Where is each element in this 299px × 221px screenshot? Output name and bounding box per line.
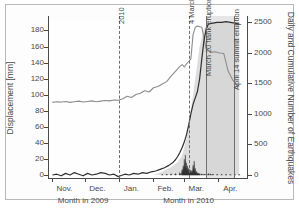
tick-mark — [44, 143, 48, 144]
displacement-area-fill — [153, 22, 239, 175]
x-tick-label: Apr. — [223, 184, 237, 193]
x-tick-label: Feb. — [157, 184, 173, 193]
plot-area: 020406080100120140160180 050010001500200… — [48, 20, 248, 175]
event-line-2010 — [119, 16, 120, 178]
tick-mark — [52, 178, 53, 182]
tick-mark — [119, 178, 120, 182]
event-label-april-14-summit-eruption: April 14 summit eruption — [232, 9, 241, 90]
tick-mark — [44, 111, 48, 112]
tick-mark — [248, 114, 252, 115]
right-tick-label: 0 — [254, 171, 258, 179]
tick-mark — [44, 63, 48, 64]
left-tick-label: 180 — [31, 26, 44, 34]
x-tick-label: Nov. — [56, 184, 72, 193]
tick-mark — [44, 30, 48, 31]
tick-mark — [44, 127, 48, 128]
figure-container: 020406080100120140160180 050010001500200… — [0, 0, 299, 221]
x-tick-label: Mar. — [188, 184, 204, 193]
right-tick-label: 1000 — [254, 110, 272, 118]
x-tick-label: Dec. — [89, 184, 105, 193]
right-axis-line — [247, 16, 248, 179]
right-tick-label: 2500 — [254, 18, 272, 26]
chart-curves — [48, 20, 248, 180]
left-axis-line — [48, 16, 49, 179]
tick-mark — [248, 175, 252, 176]
tick-mark — [85, 178, 86, 182]
x-tick-label: Jan. — [124, 184, 139, 193]
tick-mark — [44, 79, 48, 80]
tick-mark — [248, 22, 252, 23]
left-tick-label: 140 — [31, 59, 44, 67]
event-line-4-march — [189, 16, 190, 178]
left-axis-title: Displacement [mm] — [5, 23, 15, 173]
left-tick-label: 100 — [31, 91, 44, 99]
tick-mark — [153, 178, 154, 182]
event-label-2010: 2010 — [117, 7, 126, 24]
tick-mark — [248, 144, 252, 145]
x-axis-period-label: Month in 2009 — [58, 196, 109, 205]
tick-mark — [44, 175, 48, 176]
left-tick-label: 40 — [35, 139, 44, 147]
tick-mark — [44, 95, 48, 96]
x-axis-period-label: Month in 2010 — [163, 196, 214, 205]
left-tick-label: 80 — [35, 107, 44, 115]
tick-mark — [44, 159, 48, 160]
left-tick-label: 160 — [31, 43, 44, 51]
event-label-march-20-flank-eruption: March 20 flank eruption — [204, 0, 213, 76]
right-axis-title: Daily and Cumulative Number of Earthquak… — [286, 8, 296, 188]
event-label-4-march: 4 March — [187, 0, 196, 24]
tick-mark — [44, 47, 48, 48]
left-tick-label: 0 — [40, 171, 44, 179]
tick-mark — [248, 53, 252, 54]
left-tick-label: 60 — [35, 123, 44, 131]
tick-mark — [248, 83, 252, 84]
right-tick-label: 2000 — [254, 49, 272, 57]
tick-mark — [218, 178, 219, 182]
left-tick-label: 120 — [31, 75, 44, 83]
right-tick-label: 1500 — [254, 79, 272, 87]
tick-mark — [184, 178, 185, 182]
left-tick-label: 20 — [35, 155, 44, 163]
right-tick-label: 500 — [254, 140, 267, 148]
